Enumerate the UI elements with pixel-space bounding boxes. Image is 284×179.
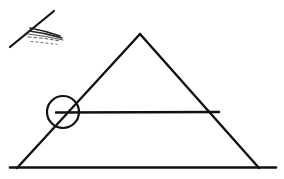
canvas-background [0,0,284,179]
sketch-drawing [0,0,284,179]
sketch-canvas [0,0,284,179]
horizontal-chord-line [56,112,219,113]
